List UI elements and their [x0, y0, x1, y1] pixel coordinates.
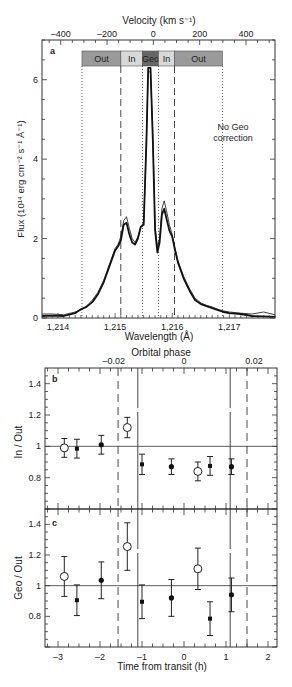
data-point [139, 585, 145, 619]
no-geo-annotation-line2: correction [213, 133, 253, 143]
wavelength-tick-label: 1,214 [47, 322, 70, 332]
figure: Velocity (km s⁻¹) –400–2000200400 OutInG… [0, 0, 292, 687]
y-tick-label: 1 [36, 441, 41, 451]
flux-tick-label: 2 [33, 234, 38, 244]
panel-b-in-out: Orbital phase 0.811.21.4–0.0200.02 b In … [13, 347, 277, 509]
filled-square-marker [140, 462, 144, 466]
y-tick-label: 1.4 [28, 379, 41, 389]
panel-a-spectrum: Velocity (km s⁻¹) –400–2000200400 OutInG… [15, 15, 275, 342]
flux-axis-title: Flux (10¹⁴ erg cm⁻² s⁻¹ Å⁻¹) [15, 120, 26, 237]
filled-square-marker [75, 447, 79, 451]
open-marker [194, 565, 202, 573]
data-point [228, 459, 234, 475]
phase-tick-label: 0.02 [245, 356, 263, 366]
plot-frame [45, 368, 277, 509]
panel-c-plot: 0.811.21.4–3–2–1012 [28, 509, 277, 662]
time-axis-title: Time from transit (h) [117, 661, 207, 672]
data-point [74, 585, 80, 616]
region-bands: OutInGeoInOut [82, 51, 222, 66]
time-tick-label: 2 [265, 652, 270, 662]
wavelength-axis-title: Wavelength (Å) [125, 330, 194, 342]
velocity-tick-label: –200 [97, 29, 117, 39]
panel-c-geo-out: 0.811.21.4–3–2–1012 c Geo / Out Time fro… [13, 509, 277, 672]
y-tick-label: 1.2 [28, 550, 41, 560]
flux-tick-label: 6 [33, 75, 38, 85]
filled-marker [169, 464, 174, 469]
filled-marker [229, 592, 234, 597]
data-point [168, 580, 174, 617]
velocity-tick-label: 400 [238, 29, 253, 39]
data-point [74, 439, 80, 458]
filled-marker [99, 578, 104, 583]
plot-frame [45, 509, 277, 647]
data-point [123, 523, 131, 571]
filled-marker [169, 595, 174, 600]
velocity-tick-label: –400 [51, 29, 71, 39]
y-tick-label: 0.8 [28, 473, 41, 483]
time-tick-label: 1 [223, 652, 228, 662]
band-label: Out [94, 54, 109, 64]
data-point [98, 435, 104, 454]
panel-c-label: c [52, 518, 57, 528]
geo-out-axis-title: Geo / Out [13, 556, 24, 600]
data-point [123, 417, 131, 437]
velocity-tick-label: 200 [192, 29, 207, 39]
y-tick-label: 1.2 [28, 410, 41, 420]
open-marker [60, 572, 68, 580]
phase-tick-label: 0 [181, 356, 186, 366]
panel-a-label: a [50, 46, 56, 56]
open-marker [123, 543, 131, 551]
filled-square-marker [208, 617, 212, 621]
no-geo-annotation-line1: No Geo [217, 122, 248, 132]
filled-marker [99, 442, 104, 447]
data-point [168, 459, 174, 475]
data-point [194, 462, 202, 481]
flux-tick-label: 4 [33, 154, 38, 164]
in-out-axis-title: In / Out [13, 425, 24, 458]
filled-marker [229, 464, 234, 469]
data-point [98, 562, 104, 599]
data-point [60, 557, 68, 597]
y-tick-label: 1 [36, 581, 41, 591]
wavelength-tick-label: 1,217 [218, 322, 241, 332]
open-marker [123, 424, 131, 432]
data-point [60, 439, 68, 458]
data-point [228, 578, 234, 612]
open-marker [194, 467, 202, 475]
y-tick-label: 0.8 [28, 611, 41, 621]
y-tick-label: 1.4 [28, 519, 41, 529]
panel-b-label: b [52, 374, 58, 384]
panel-b-plot: 0.811.21.4–0.0200.02 [28, 356, 277, 509]
data-point [207, 457, 213, 476]
filled-square-marker [140, 600, 144, 604]
time-tick-label: –2 [95, 652, 105, 662]
velocity-axis-title: Velocity (km s⁻¹) [122, 15, 195, 26]
velocity-ticks: –400–2000200400 [49, 29, 269, 45]
flux-tick-label: 0 [33, 313, 38, 323]
data-point [207, 602, 213, 636]
wavelength-tick-label: 1,215 [104, 322, 127, 332]
time-tick-label: –3 [53, 652, 63, 662]
velocity-tick-label: 0 [151, 29, 156, 39]
band-label: Out [191, 54, 206, 64]
data-point [139, 454, 145, 474]
filled-square-marker [75, 598, 79, 602]
filled-square-marker [208, 464, 212, 468]
open-marker [60, 444, 68, 452]
band-label: Geo [142, 54, 159, 64]
band-label: In [128, 54, 136, 64]
data-point [194, 548, 202, 589]
band-label: In [163, 54, 171, 64]
phase-tick-label: –0.02 [103, 356, 126, 366]
